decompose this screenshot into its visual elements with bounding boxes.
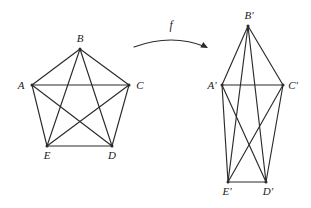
vertex-label-Ap: A' [206,79,217,91]
graph-edge-C-E [47,85,129,146]
graph-edge-A-B [32,49,80,85]
graph-vertex-C [128,84,131,87]
diagram-canvas: ABCDE f A'B'C'D'E' [0,0,311,208]
function-label-f: f [169,19,174,32]
graph-isomorphism-figure: ABCDE f A'B'C'D'E' [0,0,311,208]
graph-vertex-A [31,84,34,87]
vertex-label-Dp: D' [262,185,274,197]
graph-vertex-Bp [247,25,250,28]
graph-vertex-Cp [282,84,285,87]
vertex-label-E: E [43,149,51,161]
vertex-label-Bp: B' [244,9,254,21]
graph-vertex-B [79,48,82,51]
graph-vertex-D [111,145,114,148]
graph-edge-B-C [80,49,129,85]
graph-edge-C-D [112,85,129,146]
vertex-label-C: C [136,79,144,91]
right-graph-edges [222,26,283,182]
vertex-label-A: A [17,79,25,91]
graph-vertex-Ep [227,181,230,184]
vertex-label-D: D [107,149,116,161]
graph-edge-B-D [80,49,112,146]
vertex-label-B: B [77,32,84,44]
graph-edge-Bp-Dp [248,26,266,182]
graph-vertex-Dp [265,181,268,184]
graph-edge-A-D [32,85,112,146]
right-graph-labels: A'B'C'D'E' [206,9,298,197]
left-graph-edges [32,49,129,146]
curved-mapping-arrow-icon [134,40,206,47]
vertex-label-Ep: E' [221,185,232,197]
graph-edge-B-E [47,49,80,146]
mapping-arrow-group: f [134,19,208,48]
graph-edge-Ep-Ap [222,85,228,182]
graph-edge-Ap-Dp [222,85,266,182]
graph-vertex-Ap [221,84,224,87]
graph-vertex-E [46,145,49,148]
vertex-label-Cp: C' [288,79,298,91]
